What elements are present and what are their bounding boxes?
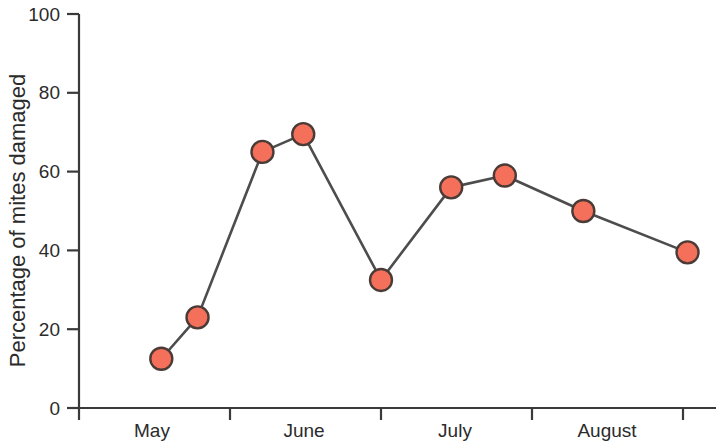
data-point: [187, 306, 209, 328]
x-axis-ticks: [79, 408, 683, 420]
axis-lines: [79, 14, 716, 408]
data-point: [370, 269, 392, 291]
data-point: [292, 123, 314, 145]
chart-figure: Percentage of mites damaged 100 80 60 40…: [0, 0, 716, 441]
plot-area: [0, 0, 716, 441]
y-axis-ticks: [67, 14, 79, 408]
data-point: [251, 141, 273, 163]
data-point: [150, 348, 172, 370]
data-point: [572, 200, 594, 222]
data-point: [677, 241, 699, 263]
data-markers: [150, 123, 698, 370]
data-point: [494, 165, 516, 187]
data-point: [440, 176, 462, 198]
data-line: [161, 134, 687, 359]
